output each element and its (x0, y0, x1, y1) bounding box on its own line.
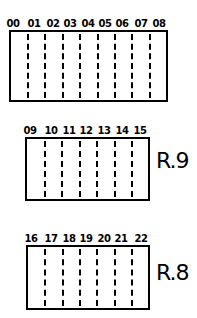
cell-divider (114, 249, 116, 306)
cell-divider (44, 249, 46, 306)
register-block-bottom (26, 245, 150, 310)
cell-number-label: 20 (98, 234, 111, 244)
cell-divider (96, 249, 98, 306)
cell-number-label: 22 (135, 234, 148, 244)
cell-number-label: 13 (98, 126, 111, 136)
cell-divider (149, 34, 151, 98)
cell-divider (96, 141, 98, 197)
cell-divider (97, 34, 99, 98)
cell-number-label: 05 (99, 19, 112, 29)
cell-number-label: 19 (80, 234, 93, 244)
cell-number-label: 08 (153, 19, 166, 29)
cell-divider (61, 141, 63, 197)
cell-number-label: 03 (64, 19, 77, 29)
cell-number-label: 10 (45, 126, 58, 136)
cell-divider (44, 34, 46, 98)
cell-number-label: 06 (116, 19, 129, 29)
cell-divider (114, 141, 116, 197)
cell-number-label: 04 (82, 19, 95, 29)
cell-divider (79, 249, 81, 306)
cell-number-label: 00 (7, 19, 20, 29)
cell-divider (131, 249, 133, 306)
cell-number-label: 17 (45, 234, 58, 244)
cell-divider (79, 141, 81, 197)
cell-number-label: 11 (63, 126, 76, 136)
cell-divider (44, 141, 46, 197)
cell-divider (114, 34, 116, 98)
cell-number-label: 01 (28, 19, 41, 29)
cell-number-label: 15 (134, 126, 147, 136)
cell-number-label: 07 (135, 19, 148, 29)
row-label-r9: R.9 (156, 150, 189, 172)
cell-number-label: 02 (47, 19, 60, 29)
cell-number-label: 21 (115, 234, 128, 244)
cell-number-label: 16 (25, 234, 38, 244)
cell-number-label: 09 (24, 126, 37, 136)
cell-divider (79, 34, 81, 98)
register-block-top (9, 30, 168, 102)
row-label-r8: R.8 (156, 262, 189, 284)
cell-divider (131, 34, 133, 98)
cell-number-label: 12 (80, 126, 93, 136)
register-block-middle (25, 137, 150, 201)
cell-number-label: 14 (116, 126, 129, 136)
cell-number-label: 18 (63, 234, 76, 244)
cell-divider (62, 249, 64, 306)
cell-divider (62, 34, 64, 98)
cell-divider (27, 34, 29, 98)
cell-divider (131, 141, 133, 197)
